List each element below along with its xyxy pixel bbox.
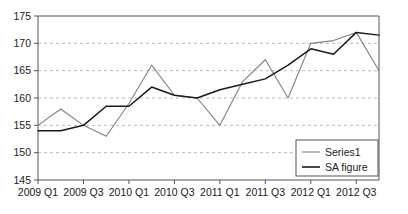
y-tick-label: 150 (13, 146, 31, 158)
x-tick-label: 2009 Q1 (18, 186, 58, 198)
legend-label: SA figure (325, 161, 368, 173)
grid-lines (38, 43, 379, 152)
x-tick-label: 2009 Q3 (63, 186, 103, 198)
x-tick-label: 2011 Q3 (246, 186, 286, 198)
x-tick-label: 2012 Q1 (291, 186, 331, 198)
y-tick-label: 175 (13, 10, 31, 22)
x-tick-label: 2012 Q3 (336, 186, 376, 198)
y-tick-label: 160 (13, 92, 31, 104)
series-line-sa-figure (38, 32, 379, 130)
chart-canvas: 145150155160165170175 2009 Q12009 Q32010… (0, 0, 408, 214)
x-tick-label: 2010 Q1 (109, 186, 149, 198)
y-tick-label: 170 (13, 37, 31, 49)
y-tick-label: 145 (13, 174, 31, 186)
y-tick-label: 165 (13, 64, 31, 76)
x-axis-ticks: 2009 Q12009 Q32010 Q12010 Q32011 Q12011 … (18, 180, 377, 198)
line-chart: 145150155160165170175 2009 Q12009 Q32010… (0, 0, 408, 214)
y-axis-ticks: 145150155160165170175 (13, 10, 38, 186)
x-tick-label: 2011 Q1 (200, 186, 240, 198)
y-tick-label: 155 (13, 119, 31, 131)
series-lines (38, 32, 379, 136)
chart-legend: Series1SA figure (296, 140, 378, 176)
x-tick-label: 2010 Q3 (154, 186, 194, 198)
legend-label: Series1 (325, 146, 361, 158)
